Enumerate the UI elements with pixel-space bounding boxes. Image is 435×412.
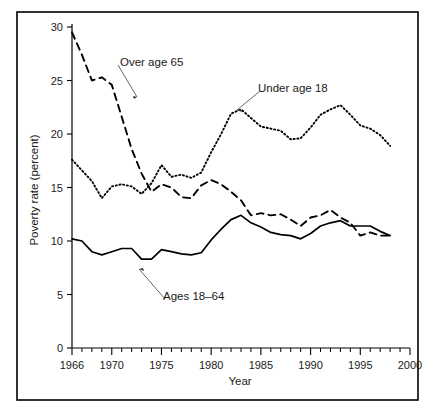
annotation-label: Over age 65 <box>120 56 183 68</box>
y-axis-tick-label: 15 <box>51 182 63 194</box>
poverty-rate-line-chart: 051015202530 196619701975198019851990199… <box>0 0 435 412</box>
y-axis-tick-label: 30 <box>51 21 63 33</box>
x-axis-tick-label: 1970 <box>100 359 124 371</box>
y-axis-tick-label: 10 <box>51 235 63 247</box>
y-axis-tick-label: 25 <box>51 75 63 87</box>
x-axis-tick-label: 1975 <box>149 359 173 371</box>
annotation-label: Under age 18 <box>258 82 328 94</box>
y-axis-tick-label: 5 <box>57 289 63 301</box>
x-axis-title: Year <box>228 375 251 387</box>
y-axis-tick-label: 20 <box>51 128 63 140</box>
x-axis-tick-label: 1966 <box>60 359 84 371</box>
x-axis-tick-label: 2000 <box>398 359 422 371</box>
x-axis-tick-label: 1980 <box>199 359 223 371</box>
x-axis-tick-label: 1995 <box>348 359 372 371</box>
x-axis-tick-label: 1990 <box>298 359 322 371</box>
x-axis-tick-label: 1985 <box>249 359 273 371</box>
y-axis-tick-label: 0 <box>57 342 63 354</box>
annotation-label: Ages 18–64 <box>163 290 225 302</box>
y-axis-title: Poverty rate (percent) <box>28 134 40 245</box>
figure-root: 051015202530 196619701975198019851990199… <box>0 0 435 412</box>
